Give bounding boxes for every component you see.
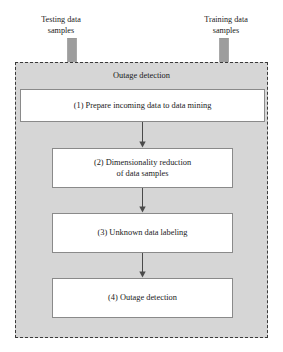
process-step-box-3: (3) Unknown data labeling — [52, 213, 233, 253]
process-step-label-3: (3) Unknown data labeling — [97, 227, 187, 239]
process-step-box-2: (2) Dimensionality reduction of data sam… — [52, 148, 233, 188]
container-title: Outage detection — [16, 71, 267, 81]
process-step-label-2-line2: of data samples — [116, 169, 168, 178]
connector-arrow-1-to-2-icon — [138, 122, 147, 148]
process-step-label-2: (2) Dimensionality reduction of data sam… — [94, 157, 191, 180]
connector-arrow-3-to-4-icon — [138, 253, 147, 278]
input-label-training-line2: samples — [178, 26, 274, 37]
input-label-testing-data-samples: Testing data samples — [16, 15, 106, 36]
outage-detection-container: Outage detection (1) Prepare incoming da… — [15, 62, 268, 338]
connector-arrow-2-to-3-icon — [138, 188, 147, 213]
process-step-box-4: (4) Outage detection — [52, 278, 233, 318]
input-label-training-data-samples: Training data samples — [178, 15, 274, 36]
process-step-label-1: (1) Prepare incoming data to data mining — [74, 100, 212, 112]
input-label-testing-line1: Testing data — [16, 15, 106, 26]
input-label-testing-line2: samples — [16, 26, 106, 37]
process-step-label-4: (4) Outage detection — [108, 292, 177, 304]
process-step-box-1: (1) Prepare incoming data to data mining — [20, 89, 265, 122]
input-label-training-line1: Training data — [178, 15, 274, 26]
process-step-label-2-line1: (2) Dimensionality reduction — [94, 158, 191, 167]
